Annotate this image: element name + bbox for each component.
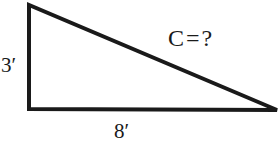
vertical-leg-label: 3′ — [1, 53, 16, 77]
right-triangle-diagram: 3′ 8′ C = ? — [0, 0, 279, 146]
triangle-shape — [29, 5, 277, 110]
hypotenuse-label: C = ? — [168, 25, 212, 51]
horizontal-leg-label: 8′ — [114, 119, 129, 143]
